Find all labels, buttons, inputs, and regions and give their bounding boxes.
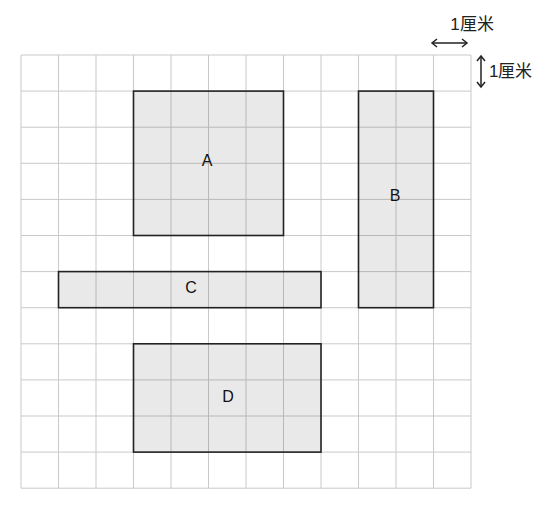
- shape-b: B: [359, 91, 434, 308]
- shape-a: A: [134, 91, 284, 235]
- horizontal-scale: 1厘米: [432, 15, 494, 47]
- double-arrow-horizontal-icon: [432, 39, 467, 47]
- vertical-scale-label: 1厘米: [489, 62, 532, 81]
- shape-label: B: [390, 187, 401, 204]
- shape-d: D: [134, 344, 322, 452]
- shapes-layer: ABCD: [59, 91, 434, 452]
- shape-label: D: [222, 388, 234, 405]
- vertical-scale: 1厘米: [477, 56, 532, 87]
- diagram-canvas: ABCD 1厘米 1厘米: [0, 0, 555, 510]
- grid-diagram: ABCD 1厘米 1厘米: [0, 0, 555, 510]
- shape-label: A: [202, 152, 213, 169]
- shape-label: C: [185, 279, 197, 296]
- double-arrow-vertical-icon: [477, 56, 485, 87]
- horizontal-scale-label: 1厘米: [450, 15, 493, 34]
- shape-c: C: [59, 272, 322, 308]
